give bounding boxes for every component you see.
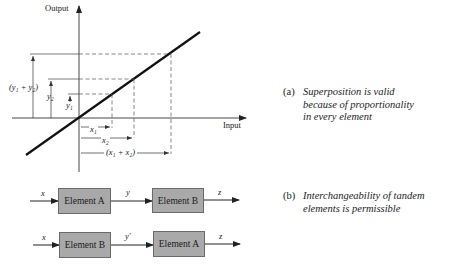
label-y2: y₂ bbox=[47, 91, 54, 101]
x-axis-label: Input bbox=[223, 120, 241, 130]
label-y1: y₁ bbox=[66, 100, 73, 110]
dashed-projections bbox=[79, 54, 171, 154]
caption-b-line-1: Interchangeability of tandem bbox=[303, 190, 425, 201]
caption-b-line-2: elements is permissible bbox=[283, 203, 425, 216]
row2-block-element-b: Element B bbox=[59, 232, 111, 258]
caption-b: (b)Interchangeability of tandem elements… bbox=[283, 190, 425, 215]
diagram-canvas bbox=[0, 0, 453, 264]
row1-block-element-b: Element B bbox=[152, 188, 204, 213]
label-y1-plus-y2: (y₁ + y₂) bbox=[9, 82, 38, 92]
row2-block-element-a: Element A bbox=[153, 231, 205, 257]
caption-a-line-2: because of proportionality bbox=[283, 99, 414, 112]
row1-middle-label: y bbox=[126, 187, 130, 197]
caption-a-line-1: Superposition is valid bbox=[303, 86, 395, 97]
row2-output-label: z bbox=[219, 231, 222, 241]
label-x1: x₁ bbox=[89, 124, 98, 134]
label-x1-plus-x2: (x₁ + x₂) bbox=[104, 147, 137, 157]
label-x2: x₂ bbox=[101, 135, 110, 145]
row2-input-label: x bbox=[42, 232, 46, 242]
caption-a-tag: (a) bbox=[283, 86, 303, 99]
row1-input-label: x bbox=[41, 188, 45, 198]
y-dimension-arrows bbox=[33, 56, 70, 118]
caption-b-tag: (b) bbox=[283, 190, 303, 203]
row2-middle-label: y′ bbox=[125, 231, 131, 241]
row1-block-element-a: Element A bbox=[58, 188, 111, 214]
caption-a: (a)Superposition is valid because of pro… bbox=[283, 86, 414, 124]
y-axis-label: Output bbox=[45, 3, 69, 13]
row1-output-label: z bbox=[218, 187, 221, 197]
caption-a-line-3: in every element bbox=[283, 111, 414, 124]
